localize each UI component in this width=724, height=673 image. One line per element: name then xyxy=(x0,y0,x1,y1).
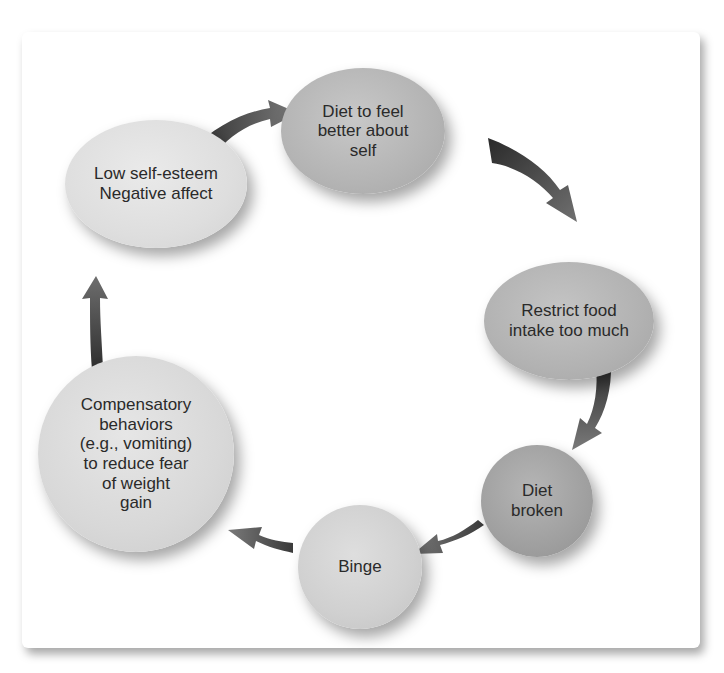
node-binge: Binge xyxy=(298,505,422,629)
arrow-compensatory-to-low-icon xyxy=(82,276,108,370)
node-label: Compensatory behaviors (e.g., vomiting) … xyxy=(80,395,192,512)
node-label: Low self-esteem Negative affect xyxy=(94,164,218,203)
node-compensatory-behaviors: Compensatory behaviors (e.g., vomiting) … xyxy=(38,356,234,552)
node-low-self-esteem: Low self-esteem Negative affect xyxy=(65,120,247,248)
arrow-broken-to-binge-icon xyxy=(413,520,484,554)
node-restrict-food-intake: Restrict food intake too much xyxy=(484,262,654,380)
arrow-binge-to-compensatory-icon xyxy=(228,527,293,553)
node-label: Restrict food intake too much xyxy=(509,301,629,340)
node-diet-to-feel-better: Diet to feel better about self xyxy=(281,68,445,194)
node-label: Diet broken xyxy=(511,481,563,520)
node-diet-broken: Diet broken xyxy=(481,445,593,557)
arrow-diet-to-restrict-icon xyxy=(488,138,577,222)
node-label: Diet to feel better about self xyxy=(318,102,409,161)
node-label: Binge xyxy=(338,557,381,577)
